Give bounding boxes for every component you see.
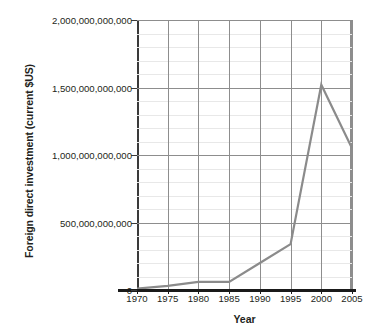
y-axis-tick-mark [131, 20, 137, 21]
y-axis-tick-mark [131, 88, 137, 89]
y-axis-tick-mark [131, 290, 137, 291]
y-axis-tick-label: 500,000,000,000 [14, 217, 132, 228]
data-series-line [137, 20, 352, 290]
y-axis-tick-mark [131, 223, 137, 224]
chart-container: Foreign direct investment (current $US) … [0, 0, 369, 330]
plot-area [137, 20, 352, 290]
x-axis-tick-labels: 19701975198019851990199520002005 [0, 293, 369, 313]
x-axis-line [118, 289, 356, 292]
gridline-vertical [352, 20, 353, 290]
y-axis-tick-label: 2,000,000,000,000 [14, 15, 132, 26]
x-axis-title: Year [137, 313, 352, 325]
y-axis-tick-labels: 0500,000,000,0001,000,000,000,0001,500,0… [8, 0, 132, 330]
y-axis-tick-label: 1,000,000,000,000 [14, 150, 132, 161]
x-axis-tick-label: 2005 [331, 293, 369, 304]
y-axis-tick-label: 1,500,000,000,000 [14, 82, 132, 93]
y-axis-tick-mark [131, 155, 137, 156]
